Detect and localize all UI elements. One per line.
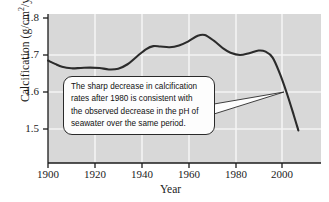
x-tick-label-1900: 1900 [28,168,68,180]
x-axis-title: Year [0,183,329,195]
x-tick-label-1940: 1940 [122,168,162,180]
x-tick-label-2000: 2000 [262,168,302,180]
x-tick-label-1980: 1980 [216,168,256,180]
x-tick-label-1960: 1960 [169,168,209,180]
x-axis-title-text: Year [160,183,181,195]
callout-line-3: the observed decrease in the pH of [71,106,208,118]
x-tick-label-1920: 1920 [75,168,115,180]
y-axis-title: Calcification (g/cm2/yr) [15,0,31,121]
y-axis-ticks [43,18,48,129]
callout-line-4: seawater over the same period. [71,118,208,130]
y-axis-title-prefix: Calcification (g/cm [19,11,31,102]
chart-figure: 1.8 1.7 1.6 1.5 1900 1920 1940 1960 1980… [0,0,329,202]
y-tick-label-1-5: 1.5 [13,122,39,134]
callout-annotation-box: The sharp decrease in calcification rate… [63,76,215,135]
y-axis-title-suffix: /yr) [19,0,31,7]
callout-line-2: rates after 1980 is consistent with [71,93,208,105]
callout-line-1: The sharp decrease in calcification [71,81,208,93]
y-axis-title-exponent: 2 [17,7,26,11]
